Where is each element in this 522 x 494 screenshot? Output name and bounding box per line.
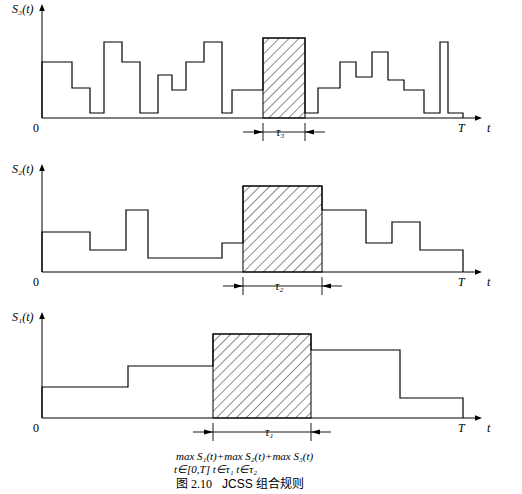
- step-curve-s3: [42, 38, 463, 118]
- tau2-arrow-left: [234, 283, 243, 288]
- x-axis-arrow-s2: [475, 269, 482, 275]
- jcss-combination-rule-diagram: [0, 0, 522, 494]
- origin-label-s1: 0: [33, 422, 39, 434]
- x-axis-label-s3: t: [487, 122, 490, 134]
- y-axis-label-s1: S₁(t): [12, 311, 34, 323]
- hatched-region-s2: [243, 186, 322, 272]
- x-axis-arrow-s1: [475, 415, 482, 421]
- figure-caption-number: 图 2.10: [176, 477, 212, 491]
- tau1-arrow-left: [204, 429, 213, 434]
- tau-label-s3: τ₃: [276, 126, 284, 138]
- tau3-arrow-left: [254, 129, 263, 134]
- x-axis-label-s2: t: [487, 276, 490, 288]
- x-axis-arrow-s3: [475, 115, 482, 121]
- tau-label-s1: τ₁: [265, 426, 273, 438]
- panel-s3: [39, 4, 482, 141]
- hatched-region-s1: [213, 334, 311, 418]
- x-axis-label-s1: t: [487, 422, 490, 434]
- origin-label-s2: 0: [33, 276, 39, 288]
- combination-formula-bottom: t∈[0,T] t∈τ₁ t∈τ₂: [174, 464, 257, 475]
- figure-container: S₃(t) 0 T t τ₃ S₂(t) 0 T t τ₂ S₁(t) 0 T …: [0, 0, 522, 494]
- y-axis-label-s3: S₃(t): [12, 3, 34, 15]
- panel-s2: [39, 164, 482, 295]
- end-label-s3: T: [458, 122, 465, 134]
- y-axis-arrow-s2: [39, 164, 45, 171]
- combination-formula-top: max S₁(t)+max S₂(t)+max S₃(t): [176, 451, 313, 462]
- tau3-arrow-right: [305, 129, 314, 134]
- tau-label-s2: τ₂: [275, 280, 283, 292]
- y-axis-arrow-s1: [39, 312, 45, 319]
- figure-caption-text: JCSS 组合规则: [222, 477, 304, 491]
- tau2-arrow-right: [322, 283, 331, 288]
- origin-label-s3: 0: [33, 122, 39, 134]
- end-label-s1: T: [458, 422, 465, 434]
- y-axis-arrow-s3: [39, 4, 45, 11]
- tau1-arrow-right: [311, 429, 320, 434]
- y-axis-label-s2: S₂(t): [12, 163, 34, 175]
- panel-s1: [39, 312, 482, 441]
- figure-caption: 图 2.10 JCSS 组合规则: [176, 478, 304, 490]
- end-label-s2: T: [458, 276, 465, 288]
- hatched-region-s3: [263, 38, 305, 118]
